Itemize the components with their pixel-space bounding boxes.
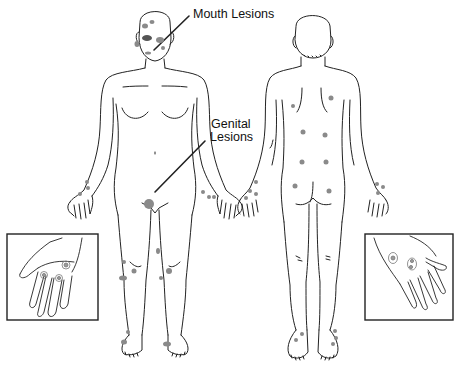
mouth-lesions-label: Mouth Lesions [193, 8, 274, 21]
left-hand-inset [7, 234, 98, 320]
mouth-leader-line [154, 16, 189, 50]
genital-leader-line [155, 141, 205, 192]
body-lesion-diagram [0, 0, 461, 366]
genital-lesions-label-line2: Lesions [210, 131, 253, 144]
lesions [78, 20, 385, 347]
right-hand-inset [365, 234, 453, 320]
